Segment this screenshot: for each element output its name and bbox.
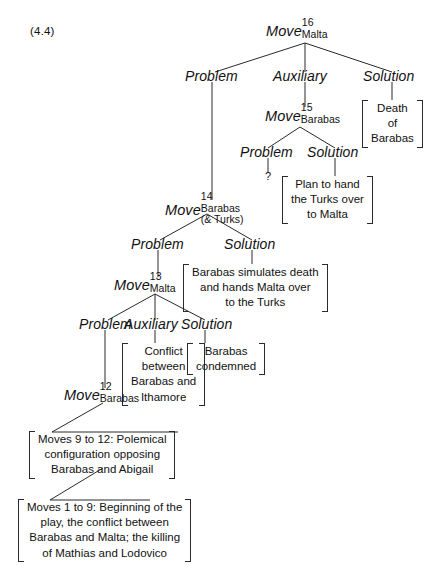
role-problem-15: Problem (240, 144, 293, 160)
box-condemned: Barabas condemned (186, 343, 266, 375)
box-conflict-line-4: Ithamore (131, 390, 196, 405)
move-15-superscript: 15 (301, 102, 340, 113)
move-15-word: Move (265, 108, 301, 124)
box-moves-9-to-12: Moves 9 to 12: Polemical configuration o… (28, 431, 176, 479)
box-moves19-line-3: Barabas and Malta; the killing (27, 530, 182, 545)
move-14-subscript-2: (& Turks) (201, 214, 244, 225)
box-simulates-line-3: to the Turks (192, 295, 319, 310)
box-conflict-line-3: Barabas and (131, 374, 196, 389)
move-16-subscript: Malta (302, 29, 328, 40)
edge-move12-triangle (52, 403, 178, 432)
box-moves912-line-2: configuration opposing (38, 447, 166, 462)
box-simulates-line-1: Barabas simulates death (192, 265, 319, 280)
move-16-superscript: 16 (302, 17, 328, 28)
move-13-word: Move (114, 277, 150, 293)
box-moves19-line-2: play, the conflict between (27, 515, 182, 530)
box-moves912-line-1: Moves 9 to 12: Polemical (38, 432, 166, 447)
box-plan-line-3: to Malta (291, 207, 364, 222)
move-15-subscript: Barabas (301, 114, 340, 125)
box-condemned-line-2: condemned (196, 359, 256, 374)
unknown-question-mark: ? (265, 170, 271, 182)
move-12-subscript: Barabas (100, 393, 139, 404)
box-simulates-death: Barabas simulates death and hands Malta … (182, 264, 329, 312)
move-13-superscript: 13 (150, 271, 176, 282)
box-plan-line-1: Plan to hand (291, 177, 364, 192)
role-problem-16: Problem (185, 68, 238, 84)
node-move-16: Move16Malta (266, 22, 328, 43)
figure-number: (4.4) (30, 25, 55, 37)
box-death-of-barabas: Death of Barabas (361, 100, 424, 148)
box-moves19-line-1: Moves 1 to 9: Beginning of the (27, 500, 182, 515)
role-auxiliary-16: Auxiliary (273, 68, 327, 84)
role-problem-14: Problem (131, 236, 184, 252)
box-plan-line-2: the Turks over (291, 192, 364, 207)
move-14-word: Move (165, 202, 201, 218)
move-12-superscript: 12 (100, 381, 139, 392)
role-solution-15: Solution (307, 144, 358, 160)
role-solution-13: Solution (181, 316, 232, 332)
role-solution-14: Solution (224, 236, 275, 252)
box-condemned-line-1: Barabas (196, 344, 256, 359)
node-move-13: Move13Malta (114, 276, 176, 297)
role-auxiliary-13: Auxiliary (124, 316, 178, 332)
box-plan-to-hand: Plan to hand the Turks over to Malta (281, 176, 374, 224)
box-moves19-line-4: of Mathias and Lodovico (27, 546, 182, 561)
move-14-subscript: Barabas (201, 203, 244, 214)
box-moves-1-to-9: Moves 1 to 9: Beginning of the play, the… (17, 499, 192, 562)
node-move-14: Move14Barabas(& Turks) (165, 196, 243, 228)
box-death-line-1: Death (371, 101, 414, 116)
move-14-superscript: 14 (201, 191, 244, 202)
box-simulates-line-2: and hands Malta over (192, 280, 319, 295)
node-move-12: Move12Barabas (64, 386, 139, 407)
box-moves912-line-3: Barabas and Abigail (38, 462, 166, 477)
box-death-line-3: Barabas (371, 131, 414, 146)
box-death-line-2: of (371, 116, 414, 131)
node-move-15: Move15Barabas (265, 107, 340, 128)
move-16-word: Move (266, 23, 302, 39)
move-12-word: Move (64, 387, 100, 403)
figure-canvas: (4.4) Move16Malta Problem Auxiliary Solu… (0, 0, 442, 568)
move-13-subscript: Malta (150, 283, 176, 294)
role-solution-16: Solution (363, 68, 414, 84)
